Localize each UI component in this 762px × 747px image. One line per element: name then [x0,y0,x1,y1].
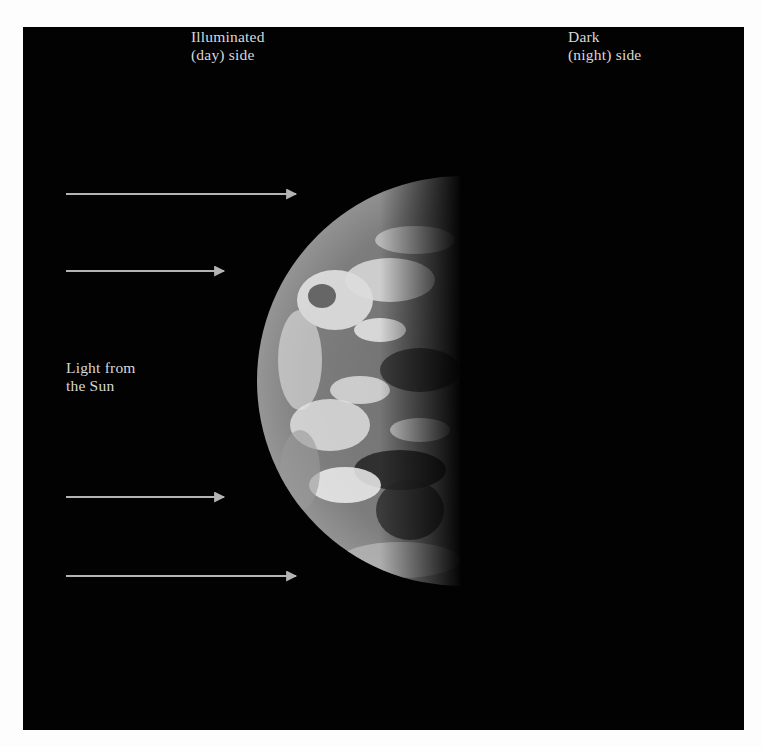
sunlight-label: Light from the Sun [66,359,136,395]
earth-day-side [257,170,667,590]
day-side-label: Illuminated (day) side [191,28,265,64]
night-side-label: Dark (night) side [568,28,641,64]
